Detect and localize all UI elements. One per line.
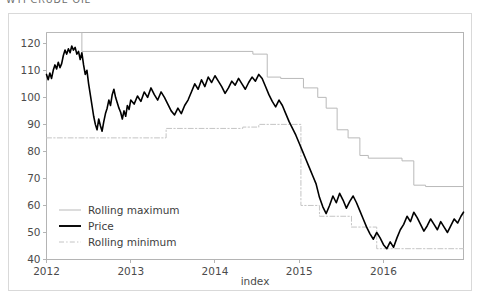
x-tick-label: 2012 xyxy=(33,265,60,277)
y-tick-label: 70 xyxy=(27,172,40,184)
legend-label: Rolling maximum xyxy=(88,204,180,216)
screenshot-root: WTI CRUDE OIL 405060708090100110120 2012… xyxy=(0,0,485,300)
legend-label: Rolling minimum xyxy=(88,236,177,248)
x-axis-title: index xyxy=(241,275,270,287)
chart-figure-card: 405060708090100110120 201220132014201520… xyxy=(8,13,472,291)
y-tick-label: 90 xyxy=(27,118,40,130)
x-tick-label: 2015 xyxy=(286,265,313,277)
y-tick-label: 110 xyxy=(20,64,40,76)
y-tick-label: 120 xyxy=(20,37,40,49)
x-tick-label: 2016 xyxy=(370,265,397,277)
legend-label: Price xyxy=(88,220,114,232)
page-title: WTI CRUDE OIL xyxy=(6,0,91,5)
y-tick-label: 100 xyxy=(20,91,40,103)
wti-crude-oil-line-chart: 405060708090100110120 201220132014201520… xyxy=(9,14,471,290)
x-tick-label: 2013 xyxy=(117,265,144,277)
y-tick-label: 80 xyxy=(27,145,40,157)
y-tick-label: 50 xyxy=(27,226,40,238)
y-tick-label: 40 xyxy=(27,253,40,265)
x-tick-label: 2014 xyxy=(202,265,229,277)
y-tick-label: 60 xyxy=(27,199,40,211)
